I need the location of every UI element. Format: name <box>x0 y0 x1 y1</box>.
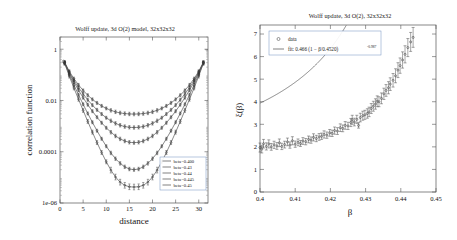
left-chart-panel: Wolff update, 3d O(2) model, 32x32x32 05… <box>0 0 232 240</box>
left-series-curve <box>65 62 204 114</box>
right-y-axis-label: ξ(β) <box>234 103 244 118</box>
right-chart-title: Wolff update, 3d O(2), 32x32x32 <box>309 12 392 20</box>
left-y-tick-label: 0.0001 <box>39 148 57 155</box>
left-legend-item-label: beta=0.43 <box>174 165 193 170</box>
left-x-tick-label: 20 <box>149 205 156 212</box>
right-y-tick-label: 5 <box>254 76 258 83</box>
right-x-tick-label: 0.44 <box>395 195 407 202</box>
left-x-tick-label: 0 <box>58 205 62 212</box>
right-legend-fit-exponent: -0.987 <box>367 45 376 49</box>
right-legend-data-label: data <box>288 36 297 42</box>
left-y-tick-label: 0.01 <box>45 97 57 104</box>
left-legend-item-label: beta=0.44 <box>174 171 193 176</box>
right-x-tick-label: 0.45 <box>430 195 442 202</box>
left-legend-item-label: beta=0.400 <box>174 159 195 164</box>
left-y-tick-label: 1 <box>54 46 57 53</box>
left-y-axis-label: correlation function <box>24 84 34 156</box>
left-series-curve <box>65 63 204 143</box>
right-y-tick-label: 3 <box>254 121 258 128</box>
right-x-axis-label: β <box>348 207 353 217</box>
left-x-tick-label: 25 <box>172 205 179 212</box>
right-y-tick-label: 7 <box>254 30 258 37</box>
left-series-curve <box>65 62 204 127</box>
left-legend-item-label: beta=0.445 <box>174 177 195 182</box>
right-x-tick-label: 0.42 <box>325 195 337 202</box>
right-y-tick-label: 1 <box>254 166 257 173</box>
left-x-tick-label: 10 <box>103 205 110 212</box>
right-legend-fit-label: fit: 0.466 (1 − β/0.4520) <box>288 46 339 53</box>
left-x-tick-label: 5 <box>81 205 85 212</box>
left-legend-item-label: beta=0.45 <box>174 183 193 188</box>
right-x-tick-label: 0.43 <box>360 195 372 202</box>
figure-pair: Wolff update, 3d O(2) model, 32x32x32 05… <box>0 0 457 240</box>
left-chart-svg: Wolff update, 3d O(2) model, 32x32x32 05… <box>0 0 232 240</box>
right-x-tick-label: 0.4 <box>256 195 265 202</box>
left-y-tick-label: 1e-06 <box>42 199 58 206</box>
left-legend: beta=0.400beta=0.43beta=0.44beta=0.445be… <box>160 157 206 190</box>
right-chart-panel: Wolff update, 3d O(2), 32x32x32 0.40.410… <box>232 0 457 240</box>
left-chart-title: Wolff update, 3d O(2) model, 32x32x32 <box>75 25 175 33</box>
right-chart-svg: Wolff update, 3d O(2), 32x32x32 0.40.410… <box>232 0 457 240</box>
right-y-tick-label: 2 <box>254 143 257 150</box>
left-x-tick-label: 15 <box>126 205 133 212</box>
right-legend: data fit: 0.466 (1 − β/0.4520) -0.987 <box>269 31 381 55</box>
right-x-tick-label: 0.41 <box>289 195 301 202</box>
right-y-tick-label: 4 <box>254 98 258 105</box>
left-x-tick-label: 30 <box>195 205 202 212</box>
right-y-tick-label: 6 <box>254 53 258 60</box>
left-x-axis-label: distance <box>119 216 149 226</box>
